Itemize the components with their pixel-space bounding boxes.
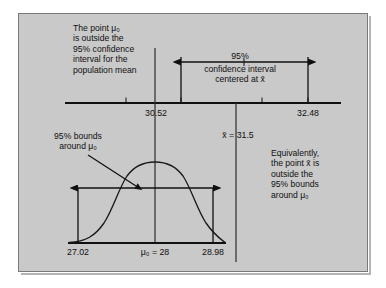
note-left-line-1: 95% bounds [54,131,102,141]
note-right-line-1: Equivalently, [271,148,319,158]
ci-lower-value-label: 30.52 [136,108,176,118]
figure-root: The point μ₀is outside the95% confidence… [0,0,386,288]
note-top-line-4: interval for the [73,54,127,64]
normal-curve [69,162,225,243]
note-top-line-5: population mean [73,65,137,75]
note-top-line-2: is outside the [73,33,124,43]
bound-upper-value-label: 28.98 [193,247,233,257]
bounds-note-pointer-arrow [88,155,136,186]
ci-percent-label: 95% [210,51,270,61]
note-top-line-1: The point μ₀ [73,23,120,33]
mu0-value-label: μ₀ = 28 [132,247,178,257]
xbar-value-label: x̄ = 31.5 [210,130,266,140]
note-point-mu0-outside-ci: The point μ₀is outside the95% confidence… [73,23,177,75]
ci-caption: confidence intervalcentered at x̄ [192,64,288,85]
ci-upper-value-label: 32.48 [288,108,328,118]
bound-lower-value-label: 27.02 [58,247,98,257]
note-right-line-5: around μ₀ [271,190,309,200]
note-top-line-3: 95% confidence [73,44,134,54]
ci-caption-line-2: centered at x̄ [215,74,265,84]
note-left-line-2: around μ₀ [59,141,97,151]
note-right-line-2: the point x̄ is [271,158,319,168]
note-right-line-3: outside the [271,169,313,179]
note-equivalently-xbar-outside-bounds: Equivalently,the point x̄ isoutside the9… [271,148,349,200]
note-95-bounds-around-mu0: 95% boundsaround μ₀ [38,131,118,152]
note-right-line-4: 95% bounds [271,179,319,189]
ci-caption-line-1: confidence interval [204,64,276,74]
